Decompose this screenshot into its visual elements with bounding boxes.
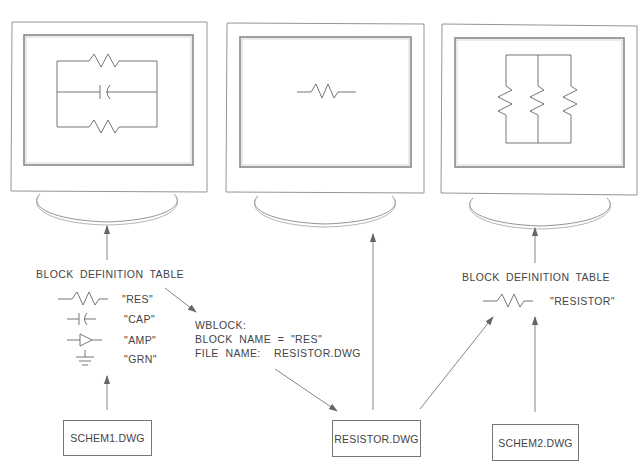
arrow-resistor-file-to-right-table [420,317,493,409]
amplifier-icon [67,334,102,346]
left-table-entry-cap: "CAP" [124,314,155,325]
file-box-schem2: SCHEM2.DWG [492,424,579,461]
ground-icon [76,350,94,365]
diagram-canvas [0,0,643,464]
monitor-screen [240,37,411,167]
resistor-icon [58,292,108,305]
monitor-resistor [226,23,424,227]
resistor-icon [498,55,512,143]
wblock-line-2: BLOCK NAME = "RES" [195,334,322,345]
resistor-icon [483,294,533,307]
resistor-icon [530,55,544,143]
monitor-frame [441,24,637,195]
monitor-frame [11,22,207,192]
left-table-entry-res: "RES" [122,294,153,305]
file-box-resistor: RESISTOR.DWG [332,420,421,457]
right-table-title: BLOCK DEFINITION TABLE [462,272,610,283]
resistor-icon [89,120,119,133]
left-table-entry-amp: "AMP" [124,335,156,346]
monitor-schem1 [11,22,207,225]
monitor-stand [37,194,178,222]
parallel-circuit-2-resistors-1-capacitor [57,54,157,133]
left-table-title: BLOCK DEFINITION TABLE [36,269,184,280]
resistor-icon [297,84,356,98]
single-resistor [297,84,356,98]
monitor-stand [255,196,396,224]
capacitor-icon [57,85,100,99]
arrow-res-to-wblock [165,288,196,312]
arrow-wblock-to-resistor-file [275,369,337,411]
file-label-schem1: SCHEM1.DWG [70,432,144,444]
file-label-schem2: SCHEM2.DWG [498,437,572,449]
monitor-schem2 [441,24,637,229]
capacitor-icon [67,313,96,325]
parallel-circuit-3-resistors [498,55,577,143]
file-label-resistor: RESISTOR.DWG [334,433,418,445]
wblock-line-3: FILE NAME: RESISTOR.DWG [195,348,361,359]
arrows [107,226,535,412]
file-box-schem1: SCHEM1.DWG [63,420,152,456]
right-table-symbols [483,294,533,307]
right-table-entry-resistor: "RESISTOR" [550,296,615,307]
left-table-entry-grn: "GRN" [124,354,157,365]
wblock-line-1: WBLOCK: [195,320,246,331]
monitor-stand [470,198,611,226]
monitor-screen [455,38,624,167]
resistor-icon [563,55,577,143]
resistor-icon [89,54,119,67]
left-table-symbols [58,292,108,365]
